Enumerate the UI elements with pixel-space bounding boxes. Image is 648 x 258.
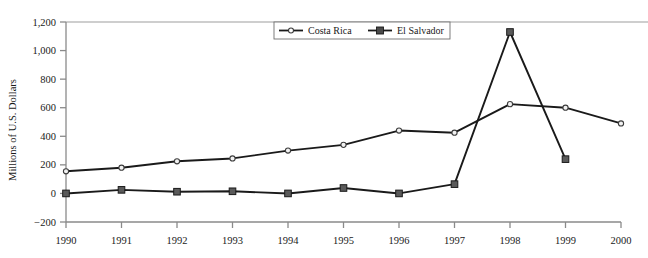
x-tick-label: 1993 xyxy=(222,235,243,246)
chart-legend: Costa Rica El Salvador xyxy=(274,22,450,39)
data-point-marker-circle xyxy=(230,156,235,161)
y-tick-label: 0 xyxy=(51,188,56,199)
data-point-marker-square xyxy=(396,190,403,197)
data-point-marker-square xyxy=(507,29,514,36)
x-tick-label: 1995 xyxy=(333,235,354,246)
data-point-marker-circle xyxy=(63,169,68,174)
legend-label-el-salvador: El Salvador xyxy=(397,25,445,36)
data-point-marker-circle xyxy=(563,105,568,110)
x-tick-label: 1991 xyxy=(111,235,132,246)
data-point-marker-square xyxy=(285,190,292,197)
data-point-marker-square xyxy=(562,156,569,163)
y-tick-label: 1,200 xyxy=(32,17,56,28)
data-point-marker-square xyxy=(63,190,70,197)
x-tick-label: 1999 xyxy=(555,235,576,246)
data-point-marker-circle xyxy=(452,130,457,135)
x-tick-label: 1998 xyxy=(500,235,521,246)
open-circle-icon xyxy=(289,28,294,33)
data-point-marker-square xyxy=(174,188,181,195)
data-point-marker-circle xyxy=(119,165,124,170)
data-point-marker-square xyxy=(118,187,125,194)
filled-square-icon xyxy=(377,27,384,34)
y-tick-label: 400 xyxy=(40,131,56,142)
legend-label-costa-rica: Costa Rica xyxy=(308,25,352,36)
data-point-marker-square xyxy=(451,181,458,188)
x-tick-label: 1994 xyxy=(278,235,300,246)
y-axis-title: Millions of U.S. Dollars xyxy=(7,79,18,181)
chart-canvas: −20002004006008001,0001,200 199019911992… xyxy=(0,0,648,258)
x-tick-label: 1990 xyxy=(56,235,77,246)
legend-item-el-salvador[interactable]: El Salvador xyxy=(368,25,445,36)
data-point-marker-circle xyxy=(341,142,346,147)
data-point-marker-circle xyxy=(396,128,401,133)
y-tick-label: 600 xyxy=(40,102,56,113)
y-tick-label: −200 xyxy=(34,217,56,228)
data-point-marker-circle xyxy=(618,121,623,126)
x-tick-label: 2000 xyxy=(611,235,632,246)
line-chart-figure: −20002004006008001,0001,200 199019911992… xyxy=(0,0,648,258)
data-point-marker-square xyxy=(229,188,236,195)
data-point-marker-circle xyxy=(507,102,512,107)
x-tick-label: 1997 xyxy=(444,235,465,246)
data-point-marker-circle xyxy=(285,148,290,153)
y-tick-label: 1,000 xyxy=(32,45,56,56)
data-point-marker-square xyxy=(340,185,347,192)
x-tick-label: 1992 xyxy=(167,235,188,246)
x-tick-label: 1996 xyxy=(389,235,410,246)
y-tick-label: 800 xyxy=(40,74,56,85)
data-point-marker-circle xyxy=(174,159,179,164)
y-tick-label: 200 xyxy=(40,159,56,170)
